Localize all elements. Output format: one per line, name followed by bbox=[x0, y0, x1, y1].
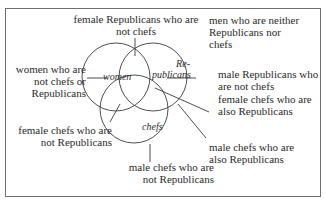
set-label-women: women bbox=[103, 72, 131, 82]
label-male-chefs-rep: male chefs who are also Republicans bbox=[209, 141, 294, 165]
label-neither: men who are neither Republicans nor chef… bbox=[209, 14, 299, 50]
label-women-only: women who are not chefs or Republicans bbox=[10, 63, 86, 99]
label-female-chefs-not-rep: female chefs who are not Republicans bbox=[10, 124, 112, 148]
set-label-republicans-2: publicans bbox=[152, 70, 191, 80]
leader-female-chefs-not-rep bbox=[110, 104, 120, 122]
label-female-chefs-rep: female chefs who are also Republicans bbox=[218, 93, 312, 117]
set-label-republicans-1: Re- bbox=[162, 59, 190, 69]
set-label-chefs: chefs bbox=[142, 122, 163, 132]
label-female-rep-not-chefs: female Republicans who are not chefs bbox=[70, 13, 202, 37]
label-male-chefs-not-rep: male chefs who are not Republicans bbox=[100, 161, 214, 185]
label-male-rep-not-chefs: male Republicans who are not chefs bbox=[218, 68, 318, 92]
